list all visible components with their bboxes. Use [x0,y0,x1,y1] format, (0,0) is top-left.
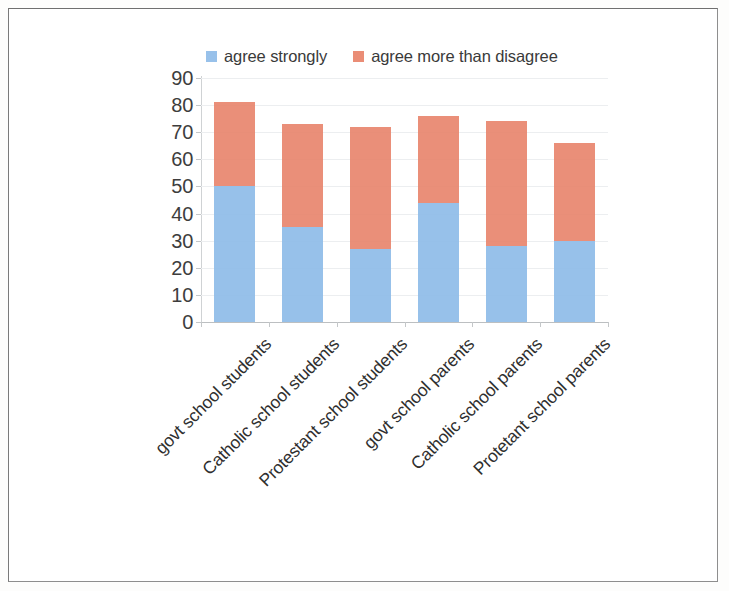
y-axis-tick [196,78,201,79]
x-axis-category-label: Protetant school parents [469,334,615,480]
y-axis-tick [196,295,201,296]
x-axis-tick [472,322,473,327]
x-axis-tick [269,322,270,327]
y-axis-tick [196,214,201,215]
y-axis-tick [196,132,201,133]
x-axis-tick [201,322,202,327]
x-axis-tick [608,322,609,327]
y-axis-tick [196,159,201,160]
stacked-bar-chart: agree strongly agree more than disagree … [0,0,729,591]
chart-page: agree strongly agree more than disagree … [0,0,729,591]
y-axis-tick [196,268,201,269]
x-axis-tick [405,322,406,327]
y-axis-tick [196,241,201,242]
x-axis-tick [337,322,338,327]
y-axis-tick [196,105,201,106]
x-axis-tick [540,322,541,327]
x-axis-category-labels: govt school studentsCatholic school stud… [0,0,729,591]
y-axis-tick [196,186,201,187]
x-axis-category-label: govt school students [151,334,276,459]
x-axis-category-label: Catholic school parents [407,334,547,474]
x-axis-category-label: Catholic school students [198,334,344,480]
